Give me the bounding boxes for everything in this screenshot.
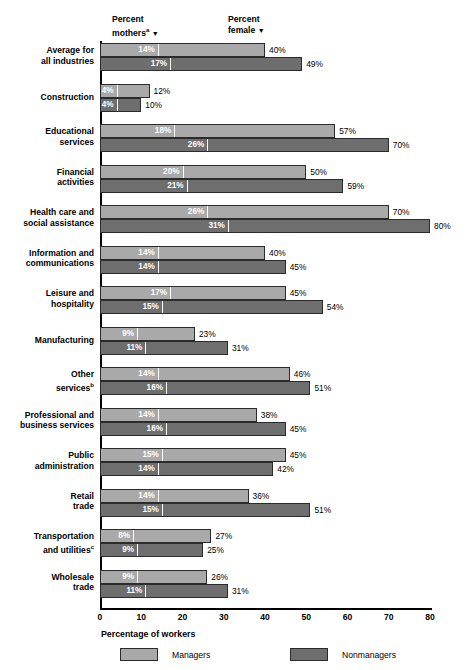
- header-mothers-line2: mothers: [112, 27, 146, 37]
- bar-row: 15%54%: [100, 300, 430, 314]
- category-label-line2: servicesb: [0, 380, 94, 393]
- legend-swatch-nonmanagers-icon: [290, 648, 328, 661]
- chart-group: 20%50%21%59%: [100, 165, 430, 193]
- category-label-line1: Wholesale: [0, 572, 94, 583]
- category-label-line1: Public: [0, 450, 94, 461]
- bar-row: 15%51%: [100, 503, 430, 517]
- percent-female-value-label: 31%: [232, 342, 249, 354]
- percent-female-value-label: 40%: [269, 44, 286, 56]
- bar-row: 14%45%: [100, 260, 430, 274]
- percent-female-value-label: 45%: [290, 423, 307, 435]
- plot-area: 14%40%17%49%4%12%4%10%18%57%26%70%20%50%…: [100, 41, 430, 609]
- percent-mothers-value-label: 8%: [100, 530, 133, 542]
- category-label-line2: services: [0, 137, 94, 148]
- percent-mothers-marker: [158, 490, 159, 502]
- percent-mothers-marker: [170, 58, 171, 70]
- chart-group: 14%40%14%45%: [100, 246, 430, 274]
- percent-mothers-marker: [162, 449, 163, 461]
- bar-row: 14%40%: [100, 246, 430, 260]
- percent-female-value-label: 45%: [290, 449, 307, 461]
- category-label-superscript: c: [91, 544, 94, 550]
- percent-mothers-marker: [166, 382, 167, 394]
- x-axis-tick-label: 60: [343, 612, 353, 622]
- category-label: Average forall industries: [0, 45, 94, 66]
- percent-mothers-marker: [158, 409, 159, 421]
- percent-mothers-value-label: 14%: [100, 409, 158, 421]
- percent-female-value-label: 80%: [434, 220, 451, 232]
- category-label-line1: Information and: [0, 248, 94, 259]
- percent-mothers-value-label: 31%: [100, 220, 228, 232]
- percent-mothers-value-label: 26%: [100, 139, 207, 151]
- category-label-line2: trade: [0, 582, 94, 593]
- bar-row: 9%25%: [100, 543, 430, 557]
- percent-mothers-value-label: 26%: [100, 206, 207, 218]
- category-label-line1: Other: [0, 369, 94, 380]
- bar-row: 4%12%: [100, 84, 430, 98]
- percent-mothers-marker: [207, 206, 208, 218]
- percent-mothers-value-label: 17%: [100, 58, 170, 70]
- percent-female-value-label: 46%: [294, 368, 311, 380]
- percent-mothers-value-label: 14%: [100, 261, 158, 273]
- category-label-line1: Average for: [0, 45, 94, 56]
- header-female-line1: Percent: [228, 14, 260, 24]
- x-axis-tick-label: 40: [260, 612, 270, 622]
- percent-female-value-label: 70%: [393, 206, 410, 218]
- percent-mothers-marker: [183, 166, 184, 178]
- percent-female-value-label: 12%: [154, 85, 171, 97]
- category-label-line1: Health care and: [0, 207, 94, 218]
- percent-mothers-value-label: 4%: [100, 85, 117, 97]
- percent-mothers-marker: [158, 261, 159, 273]
- bar-row: 17%49%: [100, 57, 430, 71]
- bar-row: 14%36%: [100, 489, 430, 503]
- percent-mothers-marker: [207, 139, 208, 151]
- category-label-line1: Transportation: [0, 531, 94, 542]
- percent-mothers-marker: [166, 423, 167, 435]
- percent-female-value-label: 59%: [347, 180, 364, 192]
- percent-mothers-marker: [228, 220, 229, 232]
- header-mothers-line1: Percent: [112, 14, 144, 24]
- bar-row: 18%57%: [100, 124, 430, 138]
- chart-group: 4%12%4%10%: [100, 84, 430, 112]
- percent-mothers-value-label: 15%: [100, 301, 162, 313]
- bar-row: 14%38%: [100, 408, 430, 422]
- x-axis-title: Percentage of workers: [101, 629, 195, 639]
- category-label-line2: administration: [0, 461, 94, 472]
- percent-female-value-label: 40%: [269, 247, 286, 259]
- x-axis-tick-label: 20: [178, 612, 188, 622]
- percent-female-value-label: 42%: [277, 463, 294, 475]
- percent-mothers-value-label: 14%: [100, 247, 158, 259]
- bar-row: 26%70%: [100, 205, 430, 219]
- percent-mothers-marker: [117, 99, 118, 111]
- percent-mothers-value-label: 21%: [100, 180, 187, 192]
- percent-mothers-marker: [137, 328, 138, 340]
- category-label: Educationalservices: [0, 126, 94, 147]
- category-label-line2: and utilitiesc: [0, 542, 94, 555]
- category-label-line2: business services: [0, 420, 94, 431]
- legend-swatch-managers-icon: [120, 648, 158, 661]
- percent-female-value-label: 57%: [339, 125, 356, 137]
- percent-female-value-label: 70%: [393, 139, 410, 151]
- percent-female-value-label: 45%: [290, 287, 307, 299]
- percent-female-value-label: 31%: [232, 585, 249, 597]
- percent-mothers-value-label: 14%: [100, 44, 158, 56]
- category-label-line2: all industries: [0, 56, 94, 67]
- percent-female-value-label: 26%: [211, 571, 228, 583]
- percent-mothers-value-label: 11%: [100, 342, 145, 354]
- chart-group: 15%45%14%42%: [100, 448, 430, 476]
- bar-row: 16%51%: [100, 381, 430, 395]
- legend-label-managers: Managers: [172, 649, 210, 661]
- percent-mothers-value-label: 14%: [100, 463, 158, 475]
- percent-mothers-value-label: 15%: [100, 504, 162, 516]
- chart-group: 14%46%16%51%: [100, 367, 430, 395]
- percent-mothers-marker: [133, 530, 134, 542]
- percent-mothers-value-label: 9%: [100, 571, 137, 583]
- chart-group: 26%70%31%80%: [100, 205, 430, 233]
- category-label: Otherservicesb: [0, 369, 94, 393]
- percent-female-value-label: 45%: [290, 261, 307, 273]
- column-header-percent-female: Percent female ▼: [228, 14, 265, 36]
- category-label-line2: social assistance: [0, 218, 94, 229]
- category-label-line1: Retail: [0, 491, 94, 502]
- percent-mothers-marker: [158, 368, 159, 380]
- x-axis-tick-label: 0: [98, 612, 103, 622]
- percent-female-value-label: 36%: [253, 490, 270, 502]
